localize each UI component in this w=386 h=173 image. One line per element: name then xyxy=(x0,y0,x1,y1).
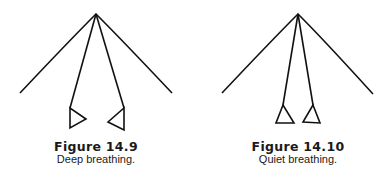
body-arc xyxy=(20,14,172,93)
right-triangle xyxy=(108,108,124,130)
figure-description: Deep breathing. xyxy=(16,153,176,165)
left-triangle xyxy=(276,105,294,123)
figure-label: Figure 14.9 xyxy=(16,140,176,153)
figure-14-10-diagram xyxy=(222,14,373,123)
figure-label: Figure 14.10 xyxy=(218,140,378,153)
right-triangle xyxy=(303,105,320,123)
figure-14-9-caption: Figure 14.9 Deep breathing. xyxy=(16,140,176,165)
left-triangle xyxy=(70,108,86,128)
figure-description: Quiet breathing. xyxy=(218,153,378,165)
figure-14-9-diagram xyxy=(20,14,172,130)
body-arc xyxy=(222,14,373,94)
figure-14-10-caption: Figure 14.10 Quiet breathing. xyxy=(218,140,378,165)
